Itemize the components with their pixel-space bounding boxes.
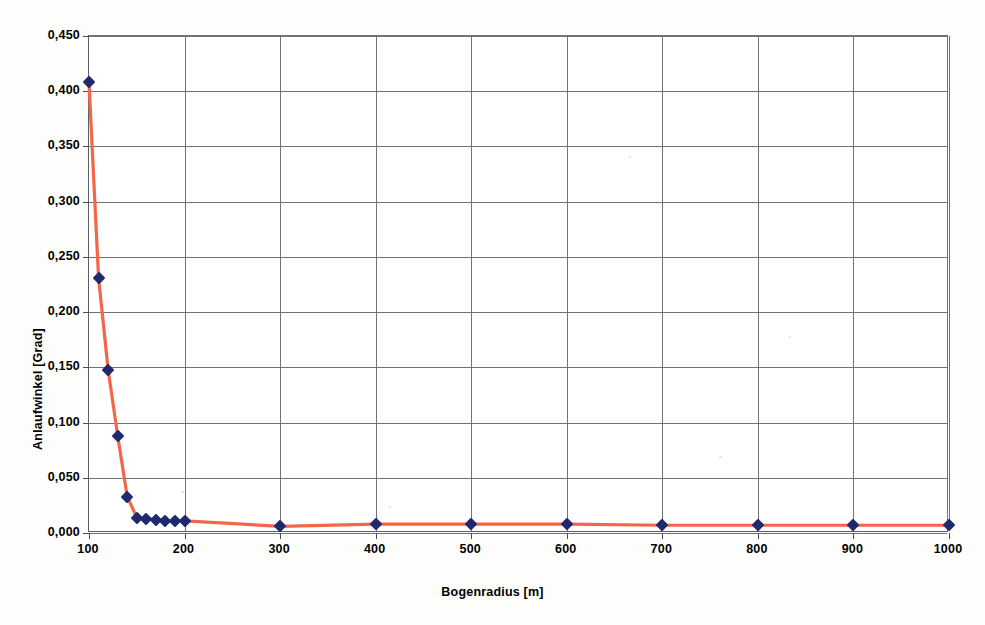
x-axis-tick-label: 100 <box>77 542 98 556</box>
data-point-marker <box>274 520 287 533</box>
x-axis-tick-label: 700 <box>651 542 672 556</box>
x-axis-tick <box>376 533 377 539</box>
x-axis-tick <box>567 533 568 539</box>
y-axis-tick <box>83 91 89 92</box>
x-axis-tick <box>89 533 90 539</box>
data-point-marker <box>83 76 96 89</box>
x-axis-tick-label: 400 <box>364 542 385 556</box>
x-axis-tick-label: 300 <box>268 542 289 556</box>
y-axis-tick <box>83 202 89 203</box>
data-point-marker <box>847 519 860 532</box>
data-point-marker <box>121 490 134 503</box>
y-axis-tick-label: 0,000 <box>48 525 80 539</box>
y-axis-tick-label: 0,350 <box>48 138 80 152</box>
data-point-marker <box>560 518 573 531</box>
gridline-horizontal <box>89 36 947 37</box>
y-axis-tick-label: 0,050 <box>48 470 80 484</box>
y-axis-title: Anlaufwinkel [Grad] <box>31 274 45 504</box>
gridline-horizontal <box>89 533 947 534</box>
y-axis-tick <box>83 146 89 147</box>
x-axis-title: Bogenradius [m] <box>0 585 985 599</box>
scan-speck <box>389 506 391 508</box>
plot-area <box>88 35 948 532</box>
data-point-marker <box>92 271 105 284</box>
y-axis-tick <box>83 423 89 424</box>
gridline-vertical <box>185 36 186 531</box>
y-axis-tick <box>83 36 89 37</box>
x-axis-tick <box>662 533 663 539</box>
data-point-marker <box>369 518 382 531</box>
data-point-marker <box>111 429 124 442</box>
gridline-horizontal <box>89 91 947 92</box>
data-point-marker <box>465 518 478 531</box>
y-axis-tick <box>83 312 89 313</box>
x-axis-tick-label: 200 <box>173 542 194 556</box>
y-axis-tick <box>83 257 89 258</box>
gridline-vertical <box>376 36 377 531</box>
x-axis-tick-label: 900 <box>842 542 863 556</box>
scan-speck <box>789 336 791 338</box>
x-axis-tick <box>758 533 759 539</box>
gridline-vertical <box>280 36 281 531</box>
gridline-vertical <box>853 36 854 531</box>
x-axis-tick <box>853 533 854 539</box>
series-line <box>89 36 949 533</box>
chart-figure: 0,0000,0500,1000,1500,2000,2500,3000,350… <box>0 0 985 625</box>
gridline-horizontal <box>89 257 947 258</box>
gridline-horizontal <box>89 478 947 479</box>
x-axis-tick <box>185 533 186 539</box>
y-axis-tick <box>83 478 89 479</box>
y-axis-tick-label: 0,400 <box>48 83 80 97</box>
x-axis-tick-label: 500 <box>459 542 480 556</box>
data-point-marker <box>943 519 956 532</box>
data-point-marker <box>178 514 191 527</box>
gridline-horizontal <box>89 146 947 147</box>
x-axis-tick-label: 800 <box>746 542 767 556</box>
gridline-vertical <box>567 36 568 531</box>
data-point-marker <box>752 519 765 532</box>
gridline-horizontal <box>89 312 947 313</box>
x-axis-tick-label: 600 <box>555 542 576 556</box>
x-axis-tick-label: 1000 <box>934 542 963 556</box>
scan-speck <box>629 156 631 158</box>
y-axis-tick-label: 0,450 <box>48 28 80 42</box>
x-axis-tick <box>949 533 950 539</box>
y-axis-title-wrapper: Anlaufwinkel [Grad] <box>18 160 58 420</box>
gridline-vertical <box>471 36 472 531</box>
gridline-vertical <box>949 36 950 531</box>
scan-speck <box>719 456 722 458</box>
data-point-marker <box>656 519 669 532</box>
gridline-horizontal <box>89 367 947 368</box>
gridline-vertical <box>662 36 663 531</box>
series-polyline <box>89 82 949 526</box>
gridline-horizontal <box>89 202 947 203</box>
gridline-vertical <box>758 36 759 531</box>
scan-speck <box>181 491 184 493</box>
data-point-marker <box>102 363 115 376</box>
x-axis-tick <box>280 533 281 539</box>
gridline-horizontal <box>89 423 947 424</box>
y-axis-tick <box>83 367 89 368</box>
x-axis-tick <box>471 533 472 539</box>
